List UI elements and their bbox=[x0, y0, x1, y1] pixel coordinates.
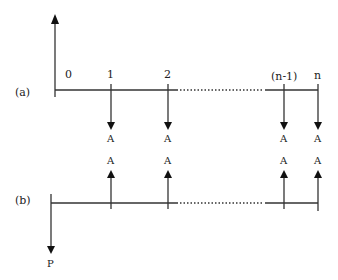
flow-label-a-3: A bbox=[279, 133, 288, 144]
period-label-2: 2 bbox=[164, 68, 171, 81]
arrowhead-up-icon bbox=[51, 14, 59, 24]
arrowhead-up-icon bbox=[314, 170, 322, 178]
flow-label-b-2: A bbox=[163, 155, 172, 166]
arrowhead-down-icon bbox=[164, 122, 172, 130]
flow-label-b-3: A bbox=[279, 155, 288, 166]
arrowhead-up-icon bbox=[280, 170, 288, 178]
arrowhead-up-icon bbox=[107, 170, 115, 178]
flow-label-a-2: A bbox=[163, 133, 172, 144]
arrowhead-down-icon bbox=[314, 122, 322, 130]
diagram-a-label: (a) bbox=[15, 86, 30, 99]
flow-label-b-1: A bbox=[106, 155, 115, 166]
flow-label-b-4: A bbox=[313, 155, 322, 166]
cash-flow-diagram: (a) 0 1 2 (n-1) n A A A A (b) A A A bbox=[0, 0, 338, 280]
present-value-label: P bbox=[47, 258, 54, 269]
arrowhead-down-icon bbox=[107, 122, 115, 130]
arrowhead-down-icon bbox=[280, 122, 288, 130]
arrowhead-up-icon bbox=[164, 170, 172, 178]
period-label-1: 1 bbox=[107, 68, 114, 81]
period-label-n: n bbox=[314, 69, 321, 82]
diagram-a: (a) 0 1 2 (n-1) n A A A A bbox=[15, 14, 322, 144]
arrowhead-down-icon bbox=[47, 246, 55, 254]
period-label-n-minus-1: (n-1) bbox=[271, 70, 297, 83]
diagram-b: (b) A A A A P bbox=[15, 155, 322, 269]
diagram-b-label: (b) bbox=[15, 194, 31, 207]
period-label-0: 0 bbox=[65, 68, 72, 81]
flow-label-a-1: A bbox=[106, 133, 115, 144]
flow-label-a-4: A bbox=[313, 133, 322, 144]
